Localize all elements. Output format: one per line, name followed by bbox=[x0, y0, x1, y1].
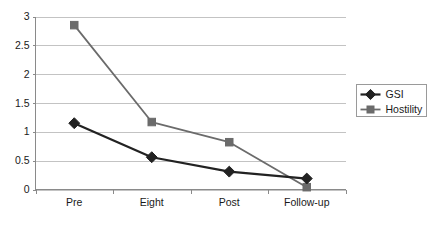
y-axis-tick-label: 3 bbox=[24, 10, 30, 22]
x-axis-tick-label: Pre bbox=[66, 196, 83, 208]
data-point-marker bbox=[226, 138, 234, 146]
y-axis-tick-label: 2.5 bbox=[15, 39, 30, 51]
legend-label: Hostility bbox=[386, 103, 424, 115]
x-axis-tick-label: Post bbox=[219, 196, 240, 208]
data-point-marker bbox=[367, 106, 374, 113]
data-point-marker bbox=[71, 21, 79, 29]
legend-label: GSI bbox=[386, 88, 404, 100]
y-axis-tick-label: 0 bbox=[24, 183, 30, 195]
y-axis-tick-label: 1.5 bbox=[15, 97, 30, 109]
data-point-marker bbox=[148, 118, 156, 126]
chart-canvas: 00.511.522.53 PreEightPostFollow-up GSIH… bbox=[0, 0, 428, 226]
x-axis-tick-label: Follow-up bbox=[284, 196, 330, 208]
y-axis-tick-label: 0.5 bbox=[15, 154, 30, 166]
y-axis-tick-label: 1 bbox=[24, 125, 30, 137]
x-axis-tick-label: Eight bbox=[140, 196, 164, 208]
y-axis-tick-label: 2 bbox=[24, 68, 30, 80]
chart-legend: GSIHostility bbox=[357, 85, 427, 117]
line-chart: 00.511.522.53 PreEightPostFollow-up GSIH… bbox=[0, 0, 428, 226]
